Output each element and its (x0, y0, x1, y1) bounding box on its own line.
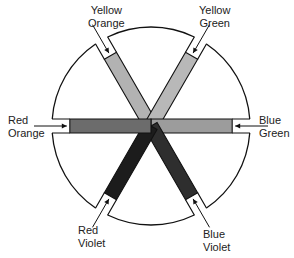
wheel-arc (52, 133, 95, 208)
spoke-red-orange (70, 119, 151, 133)
wheel-group (52, 27, 250, 225)
arrow-head-icon (62, 124, 67, 129)
label-line: Red (8, 114, 45, 127)
label-blue-violet: Blue Violet (203, 228, 230, 254)
label-line: Orange (88, 17, 125, 30)
label-blue-green: Blue Green (259, 114, 290, 140)
label-line: Red (78, 224, 105, 237)
label-line: Orange (8, 127, 45, 140)
label-red-orange: Red Orange (8, 114, 45, 140)
label-line: Blue (203, 228, 230, 241)
label-line: Yellow (199, 4, 230, 17)
spoke-red-violet (104, 123, 157, 200)
wheel-arc (52, 44, 95, 119)
label-red-violet: Red Violet (78, 224, 105, 250)
label-line: Violet (78, 237, 105, 250)
arrow-head-icon (235, 124, 240, 129)
label-line: Green (199, 17, 230, 30)
wheel-arc (206, 44, 249, 119)
label-yellow-green: Yellow Green (199, 4, 230, 30)
label-line: Yellow (88, 4, 125, 17)
label-line: Green (259, 127, 290, 140)
spoke-blue-green (151, 119, 232, 133)
spoke-yellow-green (145, 52, 198, 129)
label-line: Violet (203, 241, 230, 254)
label-yellow-orange: Yellow Orange (88, 4, 125, 30)
label-line: Blue (259, 114, 290, 127)
wheel-arc (108, 215, 195, 225)
wheel-arc (206, 133, 249, 208)
